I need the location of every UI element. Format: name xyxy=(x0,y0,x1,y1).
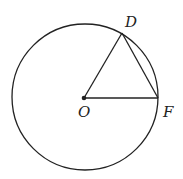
segment-df xyxy=(122,33,158,98)
label-o: O xyxy=(78,103,90,121)
label-d: D xyxy=(124,13,137,31)
label-f: F xyxy=(162,103,174,121)
center-point-o xyxy=(82,96,87,101)
segment-od xyxy=(84,33,122,98)
geometry-diagram: D O F xyxy=(0,0,183,179)
